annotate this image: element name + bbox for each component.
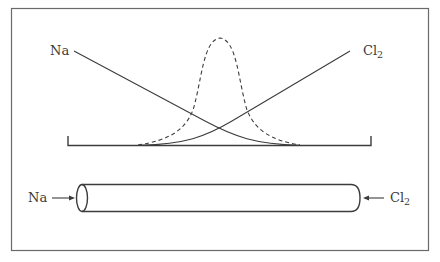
na-concentration-curve	[74, 51, 300, 145]
tube-label-cl2: Cl2	[390, 190, 410, 207]
graph-baseline	[68, 136, 371, 146]
diffusion-diagram: Na Cl2 Na Cl2	[0, 0, 440, 262]
cl2-concentration-curve	[140, 51, 350, 145]
tube-left-opening	[77, 185, 88, 212]
graph-label-cl2: Cl2	[363, 43, 383, 60]
arrow-right-icon	[69, 196, 75, 201]
cl2-inflow-arrow	[363, 196, 384, 201]
reaction-tube	[77, 185, 361, 212]
na-inflow-arrow	[52, 196, 75, 201]
product-distribution-curve	[138, 38, 300, 145]
tube-body	[82, 185, 360, 212]
graph-label-na: Na	[50, 43, 69, 58]
arrow-left-icon	[363, 196, 369, 201]
tube-label-na: Na	[28, 190, 47, 205]
